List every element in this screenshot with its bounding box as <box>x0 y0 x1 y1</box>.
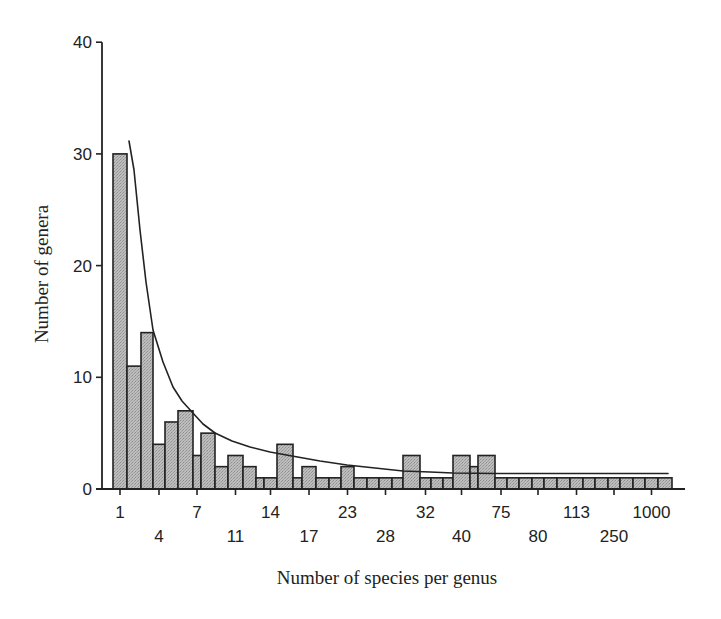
histogram-bar <box>608 478 620 489</box>
fitted-curve-line <box>129 141 668 474</box>
histogram-bar <box>620 478 633 489</box>
histogram-bar <box>329 478 341 489</box>
histogram-bar <box>645 478 658 489</box>
histogram-bar <box>583 478 595 489</box>
x-tick-label: 1000 <box>633 503 671 522</box>
histogram-bar <box>420 478 431 489</box>
y-axis-ticks: 010203040 <box>73 33 102 499</box>
histogram-bar <box>264 478 277 489</box>
histogram-bar <box>193 455 201 489</box>
histogram-bar <box>658 478 672 489</box>
histogram-bar <box>519 478 532 489</box>
y-tick-label: 40 <box>73 33 92 52</box>
histogram-bar <box>354 478 367 489</box>
histogram-bar <box>443 478 453 489</box>
histogram-bar <box>392 478 403 489</box>
histogram-bar <box>507 478 519 489</box>
histogram-bar <box>570 478 583 489</box>
x-tick-label: 113 <box>563 503 590 522</box>
histogram-bar <box>293 478 302 489</box>
histogram-bar <box>113 154 127 489</box>
histogram-bar <box>431 478 443 489</box>
histogram-bar <box>341 467 354 489</box>
y-tick-label: 20 <box>73 257 92 276</box>
histogram-bar <box>141 333 153 489</box>
histogram-bar <box>595 478 608 489</box>
bars-group <box>113 154 672 489</box>
histogram-bar <box>127 366 141 489</box>
x-axis-title: Number of species per genus <box>277 567 498 588</box>
histogram-bar <box>557 478 570 489</box>
histogram-bar <box>277 444 293 489</box>
x-axis-ticks: 1471114172328324075801132501000 <box>115 489 670 546</box>
y-tick-label: 10 <box>73 368 92 387</box>
histogram-bar <box>243 467 256 489</box>
x-tick-label: 75 <box>492 503 511 522</box>
histogram-bar <box>544 478 557 489</box>
histogram-bar <box>495 478 507 489</box>
y-axis-title: Number of genera <box>31 204 52 343</box>
x-tick-label: 40 <box>452 527 471 546</box>
histogram-bar <box>367 478 379 489</box>
histogram-bar <box>201 433 215 489</box>
x-tick-label: 14 <box>261 503 280 522</box>
x-tick-label: 250 <box>600 527 628 546</box>
chart-canvas: 010203040 147111417232832407580113250100… <box>0 0 721 619</box>
x-tick-label: 80 <box>529 527 548 546</box>
histogram-bar <box>215 467 228 489</box>
histogram-chart: 010203040 147111417232832407580113250100… <box>0 0 721 619</box>
histogram-bar <box>633 478 645 489</box>
histogram-bar <box>228 455 243 489</box>
y-tick-label: 0 <box>83 480 92 499</box>
y-tick-label: 30 <box>73 145 92 164</box>
x-tick-label: 11 <box>227 527 245 546</box>
x-tick-label: 17 <box>300 527 319 546</box>
x-tick-label: 1 <box>115 503 124 522</box>
x-tick-label: 28 <box>376 527 395 546</box>
histogram-bar <box>256 478 264 489</box>
fitted-curve-group <box>129 141 668 474</box>
x-tick-label: 7 <box>192 503 201 522</box>
x-tick-label: 4 <box>154 527 163 546</box>
histogram-bar <box>302 467 316 489</box>
histogram-bar <box>165 422 178 489</box>
histogram-bar <box>153 444 165 489</box>
x-tick-label: 32 <box>416 503 435 522</box>
histogram-bar <box>316 478 329 489</box>
histogram-bar <box>532 478 544 489</box>
histogram-bar <box>470 467 478 489</box>
x-tick-label: 23 <box>338 503 357 522</box>
histogram-bar <box>178 411 193 489</box>
histogram-bar <box>478 455 495 489</box>
histogram-bar <box>379 478 392 489</box>
